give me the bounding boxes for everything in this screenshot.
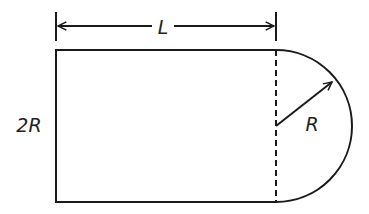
composite-shape-diagram: L R 2R xyxy=(0,0,369,214)
length-label: L xyxy=(158,16,169,38)
height-label: 2R xyxy=(16,114,41,136)
radius-arrow xyxy=(276,82,332,126)
rectangle-outline xyxy=(56,50,276,202)
radius-label: R xyxy=(305,113,318,135)
length-dimension: L xyxy=(56,12,276,41)
